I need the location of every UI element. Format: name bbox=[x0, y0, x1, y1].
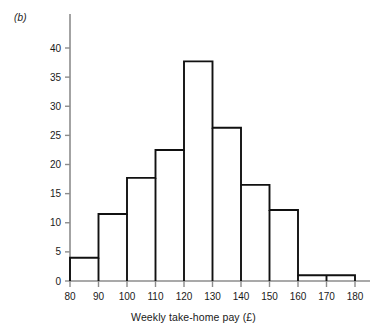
x-tick-label-130: 130 bbox=[204, 291, 221, 302]
y-tick-label-40: 40 bbox=[50, 43, 62, 54]
histogram-figure: (b) 051015202530354080901001101201301401… bbox=[0, 0, 387, 333]
x-tick-label-100: 100 bbox=[119, 291, 136, 302]
y-tick-label-25: 25 bbox=[50, 130, 62, 141]
y-tick-label-20: 20 bbox=[50, 159, 62, 170]
x-tick-label-120: 120 bbox=[176, 291, 193, 302]
x-tick-label-110: 110 bbox=[148, 291, 164, 302]
x-tick-label-150: 150 bbox=[261, 291, 278, 302]
x-tick-label-170: 170 bbox=[318, 291, 335, 302]
y-tick-label-10: 10 bbox=[50, 217, 62, 228]
x-tick-label-80: 80 bbox=[64, 291, 76, 302]
y-tick-label-0: 0 bbox=[55, 276, 61, 287]
y-tick-label-35: 35 bbox=[50, 72, 62, 83]
histogram-plot: 0510152025303540809010011012013014015016… bbox=[0, 0, 387, 333]
y-tick-label-30: 30 bbox=[50, 101, 62, 112]
y-tick-label-5: 5 bbox=[55, 246, 61, 257]
bars-layer bbox=[70, 61, 355, 281]
x-tick-label-180: 180 bbox=[347, 291, 364, 302]
x-tick-label-140: 140 bbox=[233, 291, 250, 302]
x-tick-label-90: 90 bbox=[93, 291, 105, 302]
x-tick-label-160: 160 bbox=[290, 291, 307, 302]
panel-label: (b) bbox=[14, 12, 27, 23]
x-axis-title: Weekly take-home pay (£) bbox=[0, 311, 387, 323]
y-tick-label-15: 15 bbox=[50, 188, 62, 199]
